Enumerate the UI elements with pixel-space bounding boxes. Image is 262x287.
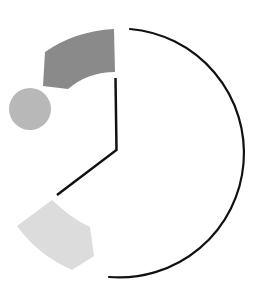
clock-hands bbox=[57, 78, 117, 195]
dark-wedge bbox=[43, 29, 115, 89]
gray-circle bbox=[9, 88, 51, 130]
light-wedge bbox=[17, 200, 94, 270]
outer-arc bbox=[109, 29, 244, 277]
clock-diagram bbox=[0, 0, 262, 287]
